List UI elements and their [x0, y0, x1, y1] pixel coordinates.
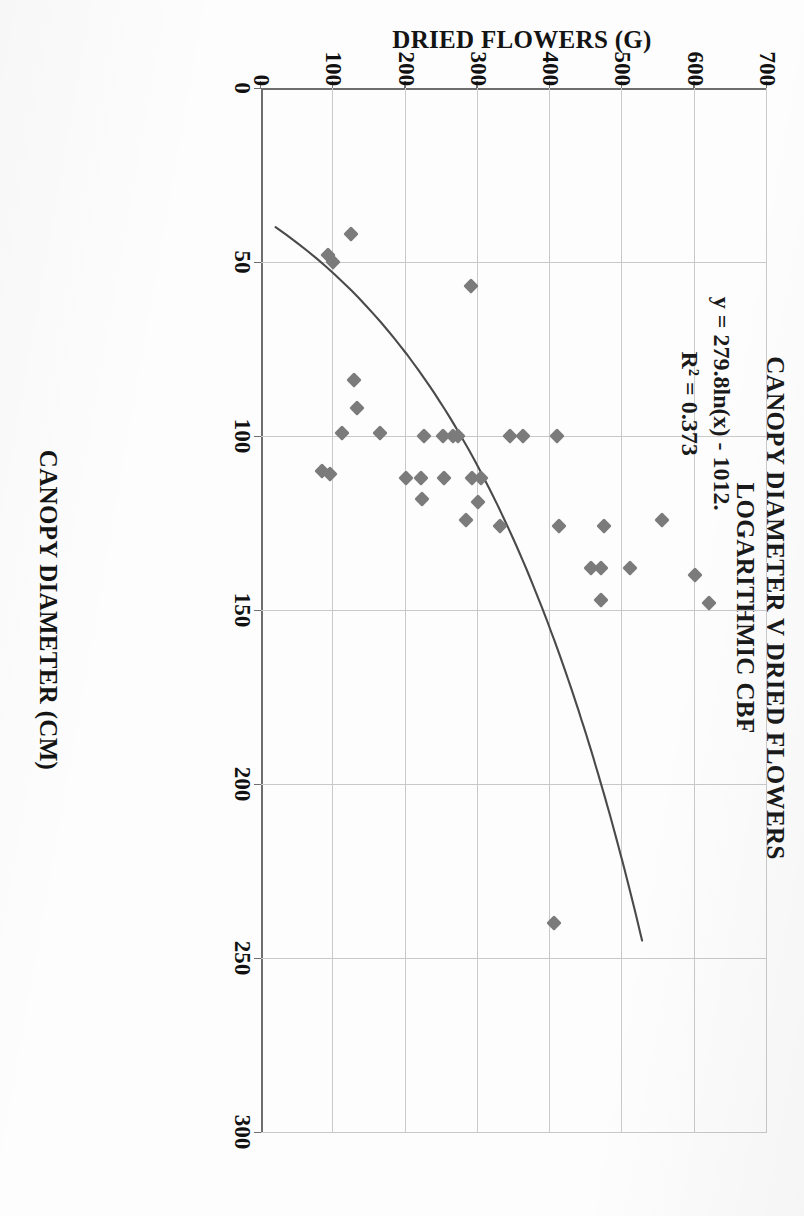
- y-tick-label: 400: [537, 16, 563, 86]
- gridline-x: [261, 1132, 767, 1133]
- tick-x: [254, 610, 261, 611]
- x-tick-label: 250: [229, 918, 255, 998]
- tick-x: [254, 436, 261, 437]
- tick-x: [254, 262, 261, 263]
- tick-x: [254, 958, 261, 959]
- y-tick-label: 300: [465, 16, 491, 86]
- scanned-chart-page: CANOPY DIAMETER V DRIED FLOWERS LOGARITH…: [0, 0, 804, 1216]
- x-tick-label: 200: [229, 744, 255, 824]
- chart-area: CANOPY DIAMETER V DRIED FLOWERS LOGARITH…: [0, 0, 804, 1216]
- x-tick-label: 50: [229, 222, 255, 302]
- plot-region: 0100200300400500600700050100150200250300…: [261, 88, 767, 1132]
- r-squared-text: R² = 0.373: [673, 297, 705, 511]
- equation-text: y = 279.8ln(x) - 1012.: [709, 297, 735, 511]
- trendline: [261, 88, 767, 1132]
- y-tick-label: 200: [393, 16, 419, 86]
- tick-x: [254, 784, 261, 785]
- y-tick-label: 100: [320, 16, 346, 86]
- x-tick-label: 0: [229, 48, 255, 128]
- trendline-equation-annotation: y = 279.8ln(x) - 1012. R² = 0.373: [673, 297, 738, 511]
- y-tick-label: 700: [754, 16, 780, 86]
- y-tick-label: 600: [682, 16, 708, 86]
- x-axis-title: CANOPY DIAMETER (CM): [34, 88, 62, 1132]
- y-tick-label: 500: [609, 16, 635, 86]
- rotated-chart-frame: CANOPY DIAMETER V DRIED FLOWERS LOGARITH…: [0, 0, 804, 1216]
- x-tick-label: 100: [229, 396, 255, 476]
- x-tick-label: 300: [229, 1092, 255, 1172]
- tick-x: [254, 1132, 261, 1133]
- tick-x: [254, 88, 261, 89]
- x-tick-label: 150: [229, 570, 255, 650]
